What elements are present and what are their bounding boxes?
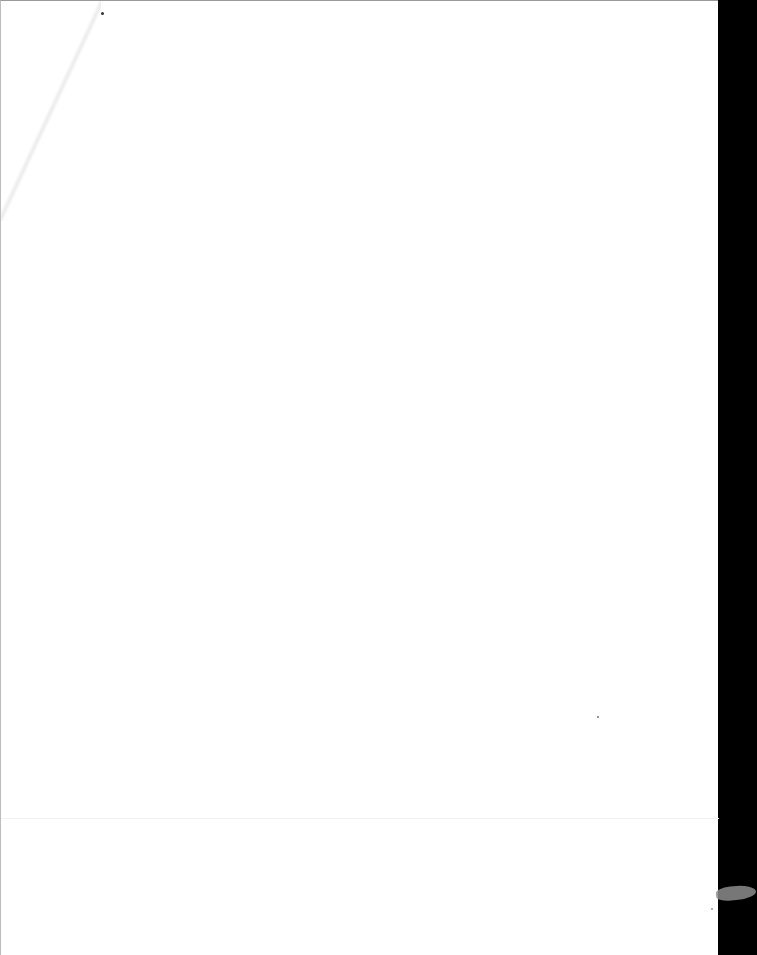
scan-speck	[711, 908, 713, 910]
scan-speck	[597, 716, 599, 718]
fold-line	[1, 818, 719, 819]
scanned-document	[0, 0, 757, 955]
paper-crease	[1, 1, 101, 221]
tape-fragment	[715, 884, 756, 902]
blank-page	[0, 0, 718, 955]
scan-speck	[101, 12, 104, 15]
